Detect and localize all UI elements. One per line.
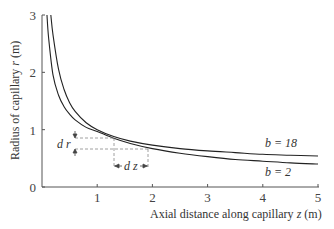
dz-label: d z bbox=[124, 159, 138, 173]
legend-b18: b = 18 bbox=[265, 136, 297, 150]
legend-b2: b = 2 bbox=[265, 165, 291, 179]
x-tick-label: 1 bbox=[94, 190, 101, 205]
curve-b18 bbox=[51, 15, 318, 156]
dr-label: d r bbox=[57, 137, 71, 151]
y-tick-label: 1 bbox=[30, 123, 37, 138]
x-tick-label: 4 bbox=[260, 190, 267, 205]
x-tick-label: 3 bbox=[204, 190, 211, 205]
y-tick-label: 0 bbox=[30, 180, 37, 195]
y-axis-label: Radius of capillary r (m) bbox=[8, 41, 22, 160]
x-tick-label: 5 bbox=[315, 190, 322, 205]
x-axis-label: Axial distance along capillary z (m) bbox=[150, 207, 322, 221]
dr-arrows bbox=[73, 131, 77, 156]
x-tick-label: 2 bbox=[149, 190, 156, 205]
y-tick-label: 2 bbox=[30, 65, 37, 80]
chart: 123450123 d r d z b = 18 b = 2 Axial dis… bbox=[0, 0, 334, 229]
y-tick-label: 3 bbox=[30, 8, 37, 23]
